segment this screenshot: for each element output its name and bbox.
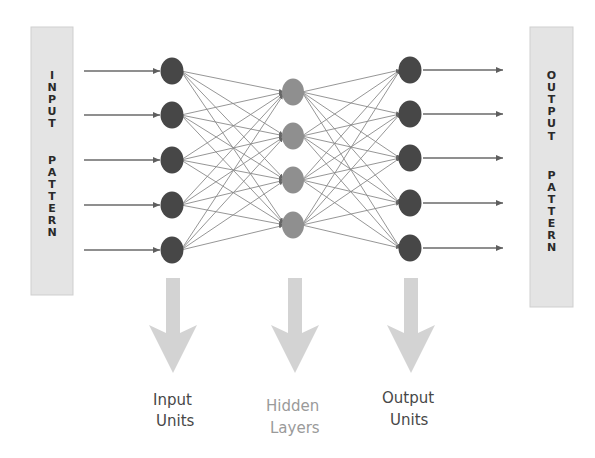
- output-node: [399, 190, 422, 217]
- hidden-output-connections: [302, 70, 400, 248]
- layer-down-arrows: [149, 278, 435, 373]
- pattern-letter: T: [548, 93, 556, 106]
- input-layer-nodes: [161, 58, 184, 264]
- output-node: [399, 101, 422, 128]
- pattern-letter: P: [547, 169, 555, 182]
- connection-line: [181, 205, 283, 225]
- output-node: [399, 235, 422, 262]
- connection-line: [302, 70, 400, 92]
- pattern-letter: I: [50, 69, 54, 82]
- input-node: [161, 58, 184, 85]
- hidden-layers-label-line2: Layers: [270, 419, 320, 437]
- pattern-letter: P: [48, 154, 56, 167]
- connection-line: [181, 71, 283, 92]
- pattern-letter: T: [548, 193, 556, 206]
- output-node: [399, 145, 422, 172]
- pattern-letter: T: [48, 178, 56, 191]
- pattern-letter: P: [48, 93, 56, 106]
- output-units-label: Output Units: [382, 389, 434, 429]
- pattern-letter: P: [547, 105, 555, 118]
- connection-line: [181, 136, 283, 160]
- input-node: [161, 147, 184, 174]
- input-hidden-connections: [181, 71, 283, 250]
- connection-line: [302, 225, 400, 248]
- pattern-letter: N: [47, 226, 56, 239]
- connection-line: [302, 70, 400, 136]
- hidden-node: [282, 79, 304, 106]
- pattern-letter: R: [48, 214, 57, 227]
- output-layer-nodes: [399, 57, 422, 262]
- input-pattern-label: INPUTPATTERN: [47, 69, 56, 239]
- hidden-node: [282, 123, 304, 150]
- hidden-layers-label: Hidden Layers: [266, 397, 320, 437]
- input-down-arrow-icon: [149, 278, 197, 373]
- connection-line: [302, 114, 400, 225]
- connection-line: [302, 203, 400, 225]
- hidden-down-arrow-icon: [271, 278, 319, 373]
- connection-line: [181, 137, 283, 205]
- pattern-letter: E: [48, 202, 56, 215]
- input-node: [161, 237, 184, 264]
- pattern-letter: T: [548, 205, 556, 218]
- connection-line: [181, 226, 283, 251]
- input-units-label-line2: Units: [156, 412, 195, 430]
- output-node: [399, 57, 422, 84]
- output-signal-arrows: [423, 70, 503, 248]
- output-units-label-line1: Output: [382, 389, 434, 407]
- input-units-label-line1: Input: [153, 391, 192, 409]
- pattern-letter: O: [547, 69, 556, 82]
- connection-line: [181, 181, 283, 206]
- connection-line: [302, 70, 400, 180]
- pattern-letter: A: [547, 181, 556, 194]
- output-units-label-line2: Units: [390, 411, 429, 429]
- pattern-letter: U: [48, 105, 57, 118]
- neural-network-diagram: INPUTPATTERN OUTPUTPATTERN Input Units H…: [0, 0, 595, 458]
- pattern-letter: U: [547, 117, 556, 130]
- hidden-node: [282, 212, 304, 239]
- input-pattern-box: INPUTPATTERN: [31, 27, 73, 295]
- pattern-letter: E: [548, 217, 556, 230]
- output-pattern-box: OUTPUTPATTERN: [530, 27, 573, 307]
- input-units-label: Input Units: [153, 391, 195, 430]
- hidden-layers-label-line1: Hidden: [266, 397, 319, 415]
- pattern-letter: T: [48, 117, 56, 130]
- input-node: [161, 102, 184, 129]
- connection-line: [302, 70, 400, 225]
- pattern-letter: N: [547, 241, 556, 254]
- connection-line: [181, 138, 283, 250]
- connection-line: [302, 158, 400, 225]
- pattern-letter: A: [48, 166, 57, 179]
- pattern-letter: T: [548, 130, 556, 143]
- pattern-letter: R: [547, 229, 556, 242]
- hidden-layer-nodes: [282, 79, 304, 239]
- pattern-letter: N: [47, 81, 56, 94]
- pattern-letter: T: [48, 190, 56, 203]
- hidden-node: [282, 167, 304, 194]
- input-node: [161, 192, 184, 219]
- output-down-arrow-icon: [387, 278, 435, 373]
- input-signal-arrows: [84, 71, 160, 250]
- pattern-letter: U: [547, 81, 556, 94]
